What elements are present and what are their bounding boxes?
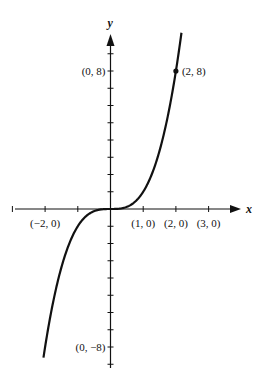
curve-series [43, 33, 181, 358]
x-axis-arrow-icon [230, 205, 241, 213]
y-axis-arrow-icon [107, 34, 115, 46]
point-label: (0, −8) [75, 341, 105, 354]
point-label: (1, 0) [131, 217, 155, 230]
point-marker [173, 68, 178, 73]
point-label: (0, 8) [82, 65, 106, 78]
point-label: (2, 8) [182, 65, 206, 78]
point-label: (−2, 0) [30, 217, 60, 230]
point-label: (2, 0) [164, 217, 188, 230]
point-label: (3, 0) [197, 217, 221, 230]
cubic-function-chart: x y (0, 8)(2, 8)(0, −8)(−2, 0)(1, 0)(2, … [0, 0, 262, 386]
y-axis-label: y [106, 16, 114, 30]
x-axis-label: x [245, 202, 252, 216]
curve-layer [43, 33, 181, 358]
